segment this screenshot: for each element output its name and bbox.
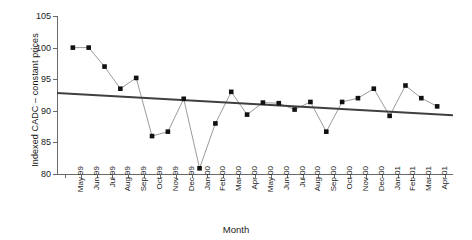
data-point-marker xyxy=(308,100,313,105)
x-axis-tick-label: Mar 01 xyxy=(424,166,433,191)
series-polyline xyxy=(73,48,437,169)
data-point-marker xyxy=(261,100,266,105)
y-axis-tick-label: 105 xyxy=(36,11,51,21)
data-point-marker xyxy=(102,64,107,69)
x-axis-tick-label: Jan 01 xyxy=(393,166,402,190)
y-axis-tick-label: 95 xyxy=(41,74,51,84)
x-axis-tick-label: May 00 xyxy=(266,166,275,192)
data-point-marker xyxy=(213,121,218,126)
y-axis-tick-label: 85 xyxy=(41,137,51,147)
data-point-marker xyxy=(419,96,424,101)
data-point-marker xyxy=(118,86,123,91)
data-point-marker xyxy=(197,166,202,171)
y-axis-tick-label: 100 xyxy=(36,43,51,53)
x-axis-tick-label: Oct 00 xyxy=(345,166,354,190)
x-axis-tick-label: Oct 99 xyxy=(155,166,164,190)
x-axis-tick-label: Jun 99 xyxy=(92,166,101,190)
x-axis-tick-label: Sep 00 xyxy=(329,166,338,191)
data-point-marker xyxy=(229,90,234,95)
x-axis-tick-label: Jan 00 xyxy=(203,166,212,190)
data-point-marker xyxy=(166,129,171,134)
data-point-marker xyxy=(245,112,250,117)
x-axis-tick-label: Jun 00 xyxy=(282,166,291,190)
data-point-marker xyxy=(324,129,329,134)
data-point-marker xyxy=(340,100,345,105)
x-axis-tick-label: Aug 99 xyxy=(123,166,132,191)
data-point-marker xyxy=(356,96,361,101)
x-axis-tick-label: Aug 00 xyxy=(313,166,322,191)
x-axis-tick-label: Nov 99 xyxy=(171,166,180,191)
x-axis-tick-label: Feb 01 xyxy=(408,166,417,191)
x-axis-tick-label: Apr 01 xyxy=(440,166,449,190)
data-point-marker xyxy=(134,76,139,81)
x-axis-tick-label: Apr 00 xyxy=(250,166,259,190)
x-axis-tick-label: Feb 00 xyxy=(218,166,227,191)
x-axis-tick xyxy=(65,174,66,178)
y-axis-tick-label: 80 xyxy=(41,169,51,179)
y-axis-tick xyxy=(53,174,57,175)
data-point-marker xyxy=(403,83,408,88)
data-point-marker xyxy=(435,104,440,109)
x-axis-tick-label: Dec 00 xyxy=(377,166,386,191)
chart-container: Indexed CADC – constant prices 808590951… xyxy=(0,0,472,240)
data-point-marker xyxy=(181,96,186,101)
data-series-line xyxy=(57,16,453,174)
data-point-marker xyxy=(387,114,392,119)
data-point-marker xyxy=(292,107,297,112)
trendline xyxy=(57,93,453,115)
x-axis-tick-label: Sep 99 xyxy=(139,166,148,191)
x-axis-tick-label: Dec 99 xyxy=(187,166,196,191)
data-point-marker xyxy=(372,86,377,91)
x-axis-title: Month xyxy=(0,224,472,235)
data-point-marker xyxy=(276,101,281,106)
x-axis-tick-label: Jul 99 xyxy=(108,166,117,187)
y-axis-tick-label: 90 xyxy=(41,106,51,116)
data-point-marker xyxy=(86,45,91,50)
x-axis-tick-label: Nov 00 xyxy=(361,166,370,191)
plot-area: 80859095100105 xyxy=(57,16,453,174)
x-axis-tick-label: Mar 00 xyxy=(234,166,243,191)
data-point-marker xyxy=(150,134,155,139)
data-point-marker xyxy=(71,45,76,50)
x-axis-tick-label: May 99 xyxy=(76,166,85,192)
x-axis-tick-label: Jul 00 xyxy=(298,166,307,187)
